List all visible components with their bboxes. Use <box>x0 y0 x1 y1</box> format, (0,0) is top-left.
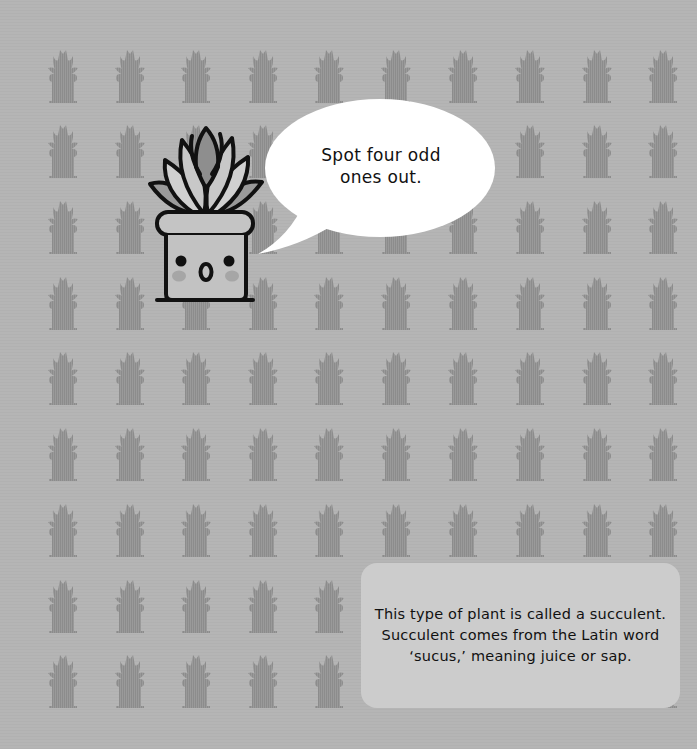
succulent-silhouette[interactable] <box>444 275 482 331</box>
potted-succulent-silhouette-icon <box>578 426 616 482</box>
succulent-silhouette[interactable] <box>511 426 549 482</box>
succulent-silhouette[interactable] <box>377 350 415 406</box>
succulent-silhouette[interactable] <box>177 48 215 104</box>
succulent-silhouette[interactable] <box>644 123 682 179</box>
succulent-silhouette[interactable] <box>377 275 415 331</box>
fact-line-1: This type of plant is called a succulent… <box>375 604 666 625</box>
succulent-silhouette[interactable] <box>377 426 415 482</box>
succulent-silhouette[interactable] <box>177 502 215 558</box>
succulent-silhouette[interactable] <box>244 653 282 709</box>
succulent-silhouette[interactable] <box>111 426 149 482</box>
potted-succulent-silhouette-icon <box>44 653 82 709</box>
potted-succulent-silhouette-icon <box>377 275 415 331</box>
potted-succulent-silhouette-icon <box>111 48 149 104</box>
succulent-silhouette[interactable] <box>644 502 682 558</box>
succulent-silhouette[interactable] <box>578 123 616 179</box>
succulent-silhouette[interactable] <box>177 350 215 406</box>
potted-succulent-silhouette-icon <box>177 578 215 634</box>
potted-succulent-silhouette-icon <box>244 653 282 709</box>
succulent-silhouette[interactable] <box>111 653 149 709</box>
succulent-silhouette[interactable] <box>511 123 549 179</box>
potted-succulent-silhouette-icon <box>511 275 549 331</box>
potted-succulent-silhouette-icon <box>177 426 215 482</box>
succulent-silhouette[interactable] <box>44 653 82 709</box>
succulent-silhouette[interactable] <box>111 502 149 558</box>
succulent-silhouette[interactable] <box>578 275 616 331</box>
potted-succulent-silhouette-icon <box>644 123 682 179</box>
succulent-silhouette[interactable] <box>177 653 215 709</box>
potted-succulent-silhouette-icon <box>578 275 616 331</box>
potted-succulent-silhouette-icon <box>377 502 415 558</box>
succulent-silhouette[interactable] <box>44 199 82 255</box>
succulent-silhouette[interactable] <box>177 578 215 634</box>
succulent-silhouette[interactable] <box>177 426 215 482</box>
succulent-silhouette[interactable] <box>44 350 82 406</box>
potted-succulent-silhouette-icon <box>578 48 616 104</box>
potted-succulent-silhouette-icon <box>177 48 215 104</box>
potted-succulent-silhouette-icon <box>511 123 549 179</box>
succulent-silhouette[interactable] <box>644 350 682 406</box>
succulent-silhouette[interactable] <box>578 350 616 406</box>
potted-succulent-silhouette-icon <box>511 502 549 558</box>
fact-line-3: ‘sucus,’ meaning juice or sap. <box>375 646 666 667</box>
succulent-silhouette[interactable] <box>244 502 282 558</box>
succulent-silhouette[interactable] <box>578 48 616 104</box>
potted-succulent-silhouette-icon <box>511 48 549 104</box>
succulent-silhouette[interactable] <box>578 502 616 558</box>
potted-succulent-silhouette-icon <box>44 426 82 482</box>
succulent-silhouette[interactable] <box>111 350 149 406</box>
succulent-silhouette[interactable] <box>644 199 682 255</box>
succulent-silhouette[interactable] <box>511 275 549 331</box>
potted-succulent-silhouette-icon <box>310 578 348 634</box>
fact-info-box: This type of plant is called a succulent… <box>361 563 680 708</box>
succulent-silhouette[interactable] <box>444 502 482 558</box>
potted-succulent-silhouette-icon <box>511 350 549 406</box>
succulent-silhouette[interactable] <box>444 350 482 406</box>
succulent-silhouette[interactable] <box>244 350 282 406</box>
succulent-silhouette[interactable] <box>377 502 415 558</box>
succulent-silhouette[interactable] <box>511 350 549 406</box>
succulent-silhouette[interactable] <box>44 48 82 104</box>
speech-bubble-text: Spot four odd ones out. <box>265 144 497 188</box>
potted-succulent-silhouette-icon <box>111 426 149 482</box>
succulent-silhouette[interactable] <box>444 426 482 482</box>
succulent-silhouette[interactable] <box>310 426 348 482</box>
right-eye <box>224 256 235 267</box>
succulent-silhouette[interactable] <box>310 653 348 709</box>
succulent-silhouette[interactable] <box>44 275 82 331</box>
potted-succulent-silhouette-icon <box>444 426 482 482</box>
succulent-silhouette[interactable] <box>310 502 348 558</box>
succulent-silhouette[interactable] <box>578 426 616 482</box>
potted-succulent-silhouette-icon <box>511 426 549 482</box>
succulent-silhouette[interactable] <box>511 48 549 104</box>
succulent-silhouette[interactable] <box>44 426 82 482</box>
potted-succulent-silhouette-icon <box>644 48 682 104</box>
succulent-silhouette[interactable] <box>44 502 82 558</box>
potted-succulent-silhouette-icon <box>44 123 82 179</box>
fact-text: This type of plant is called a succulent… <box>375 604 666 667</box>
succulent-silhouette[interactable] <box>44 123 82 179</box>
succulent-silhouette[interactable] <box>511 199 549 255</box>
potted-succulent-silhouette-icon <box>578 502 616 558</box>
succulent-silhouette[interactable] <box>644 48 682 104</box>
succulent-silhouette[interactable] <box>310 350 348 406</box>
potted-succulent-silhouette-icon <box>644 350 682 406</box>
succulent-silhouette[interactable] <box>578 199 616 255</box>
succulent-silhouette[interactable] <box>44 578 82 634</box>
potted-succulent-silhouette-icon <box>44 48 82 104</box>
succulent-silhouette[interactable] <box>244 578 282 634</box>
succulent-silhouette[interactable] <box>644 275 682 331</box>
succulent-silhouette[interactable] <box>644 426 682 482</box>
potted-succulent-silhouette-icon <box>44 275 82 331</box>
succulent-silhouette[interactable] <box>511 502 549 558</box>
succulent-silhouette[interactable] <box>111 48 149 104</box>
succulent-silhouette[interactable] <box>244 426 282 482</box>
potted-succulent-silhouette-icon <box>44 199 82 255</box>
potted-succulent-silhouette-icon <box>44 502 82 558</box>
potted-succulent-silhouette-icon <box>111 350 149 406</box>
potted-succulent-silhouette-icon <box>310 426 348 482</box>
succulent-silhouette[interactable] <box>310 275 348 331</box>
potted-succulent-silhouette-icon <box>44 350 82 406</box>
succulent-silhouette[interactable] <box>310 578 348 634</box>
succulent-silhouette[interactable] <box>111 578 149 634</box>
